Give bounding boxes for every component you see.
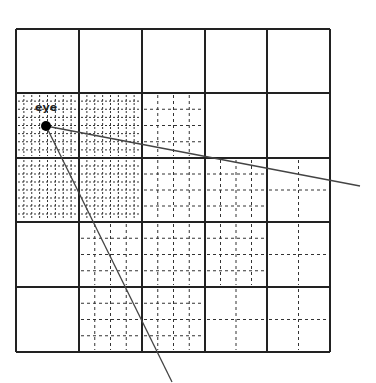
eye-point-icon (41, 121, 51, 131)
view-ray-right (46, 126, 360, 186)
eye-label: eye (35, 101, 57, 114)
view-ray-down (46, 126, 172, 382)
lod-grid-diagram (0, 0, 376, 383)
